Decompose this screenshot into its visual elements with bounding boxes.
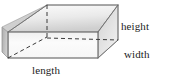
rectangular-prism-diagram (0, 0, 172, 82)
left-face (2, 27, 8, 58)
width-label: width (124, 48, 150, 60)
figure-container: height width length (0, 0, 172, 82)
front-face (8, 32, 98, 58)
height-label: height (121, 20, 149, 32)
length-label: length (32, 64, 60, 76)
